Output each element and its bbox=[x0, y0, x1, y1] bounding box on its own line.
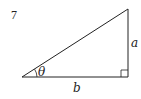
problem-number: 7 bbox=[11, 8, 17, 22]
right-triangle-diagram: 7 θ a b bbox=[0, 0, 141, 99]
side-label-a: a bbox=[131, 36, 138, 50]
right-angle-marker bbox=[121, 70, 128, 77]
angle-arc bbox=[35, 69, 37, 77]
side-label-b: b bbox=[73, 81, 81, 95]
angle-label-theta: θ bbox=[38, 65, 46, 79]
